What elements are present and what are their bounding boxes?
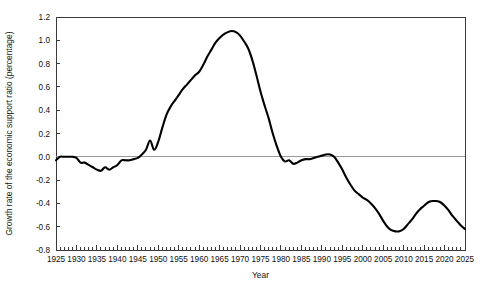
x-tick-label: 1965	[210, 255, 229, 264]
y-tick-label: -0.8	[36, 246, 51, 255]
x-tick-label: 2020	[435, 255, 454, 264]
y-tick-label: 0.6	[39, 83, 51, 92]
y-tick-label: -0.4	[36, 199, 51, 208]
series-line-growth-rate	[56, 31, 465, 232]
y-tick-label: 0.4	[39, 106, 51, 115]
chart-frame	[56, 17, 465, 250]
x-axis-tick-marks	[56, 245, 465, 250]
y-tick-label: 0.0	[39, 153, 51, 162]
x-tick-label: 1925	[47, 255, 66, 264]
x-tick-label: 2015	[415, 255, 434, 264]
x-tick-label: 1960	[190, 255, 209, 264]
y-axis-tick-marks	[56, 17, 60, 250]
x-tick-label: 2005	[374, 255, 393, 264]
x-tick-label: 1930	[67, 255, 86, 264]
y-tick-label: 0.2	[39, 130, 51, 139]
y-axis-title: Growth rate of the economic support rati…	[4, 31, 14, 235]
chart-container: 1925193019351940194519501955196019651970…	[0, 0, 485, 292]
x-tick-label: 1995	[333, 255, 352, 264]
y-axis-tick-labels: -0.8-0.6-0.4-0.20.00.20.40.60.81.01.2	[36, 13, 51, 255]
y-tick-label: -0.2	[36, 176, 51, 185]
x-tick-label: 1950	[149, 255, 168, 264]
y-tick-label: -0.6	[36, 223, 51, 232]
growth-rate-line-chart: 1925193019351940194519501955196019651970…	[0, 0, 485, 292]
y-tick-label: 1.2	[39, 13, 51, 22]
x-tick-label: 1970	[231, 255, 250, 264]
x-axis-tick-labels: 1925193019351940194519501955196019651970…	[47, 255, 475, 264]
x-tick-label: 1975	[251, 255, 270, 264]
y-tick-label: 1.0	[39, 36, 51, 45]
x-tick-label: 1935	[88, 255, 107, 264]
x-tick-label: 1955	[170, 255, 189, 264]
y-tick-label: 0.8	[39, 60, 51, 69]
x-axis-title: Year	[252, 270, 269, 280]
x-tick-label: 1990	[313, 255, 332, 264]
x-tick-label: 1985	[292, 255, 311, 264]
x-tick-label: 2000	[354, 255, 373, 264]
x-tick-label: 2010	[395, 255, 414, 264]
x-tick-label: 1940	[108, 255, 127, 264]
x-tick-label: 1945	[129, 255, 148, 264]
axes-frame-path	[56, 17, 465, 250]
x-tick-label: 1980	[272, 255, 291, 264]
x-tick-label: 2025	[456, 255, 475, 264]
